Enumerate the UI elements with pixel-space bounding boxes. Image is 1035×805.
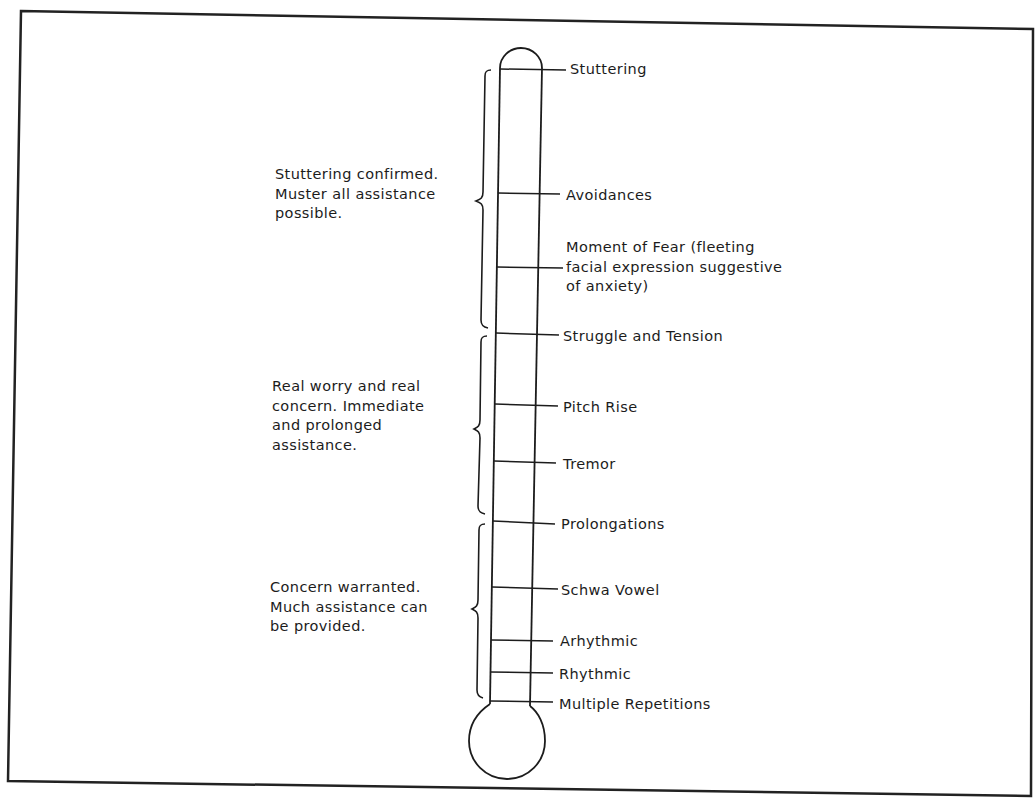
moment-of-fear-line-1: Moment of Fear (fleeting [566, 238, 782, 258]
brace-warranted [472, 524, 485, 698]
real-worry-line-4: assistance. [272, 436, 424, 456]
brace-real-worry [474, 336, 487, 514]
stage-label-tremor: Tremor [563, 455, 616, 474]
confirmed-line-3: possible. [275, 204, 439, 224]
stage-label-pitch-rise: Pitch Rise [563, 398, 638, 417]
stage-label-avoidances: Avoidances [566, 186, 652, 205]
real-worry-line-3: and prolonged [272, 416, 424, 436]
stage-ticks [490, 69, 566, 702]
diagram-graphics [0, 0, 1035, 805]
warranted-line-1: Concern warranted. [270, 578, 428, 598]
group-desc-real-worry: Real worry and real concern. Immediate a… [272, 377, 424, 455]
group-desc-confirmed: Stuttering confirmed. Muster all assista… [275, 165, 439, 224]
stage-label-multiple-repetitions: Multiple Repetitions [559, 695, 711, 714]
confirmed-line-2: Muster all assistance [275, 185, 439, 205]
confirmed-line-1: Stuttering confirmed. [275, 165, 439, 185]
figure-frame [8, 11, 1033, 796]
stage-label-prolongations: Prolongations [561, 515, 665, 534]
group-desc-warranted: Concern warranted. Much assistance can b… [270, 578, 428, 637]
group-braces [472, 70, 491, 698]
moment-of-fear-line-3: of anxiety) [566, 277, 782, 297]
warranted-line-2: Much assistance can [270, 598, 428, 618]
warranted-line-3: be provided. [270, 617, 428, 637]
stage-label-stuttering: Stuttering [570, 60, 647, 79]
thermometer-diagram: Stuttering Avoidances Moment of Fear (fl… [0, 0, 1035, 805]
stage-label-moment-of-fear: Moment of Fear (fleeting facial expressi… [566, 238, 782, 297]
moment-of-fear-line-2: facial expression suggestive [566, 258, 782, 278]
brace-confirmed [476, 70, 491, 328]
stage-label-schwa-vowel: Schwa Vowel [561, 581, 660, 600]
real-worry-line-1: Real worry and real [272, 377, 424, 397]
real-worry-line-2: concern. Immediate [272, 397, 424, 417]
stage-label-rhythmic: Rhythmic [559, 665, 631, 684]
stage-label-struggle-and-tension: Struggle and Tension [563, 327, 723, 346]
stage-label-arhythmic: Arhythmic [560, 632, 638, 651]
